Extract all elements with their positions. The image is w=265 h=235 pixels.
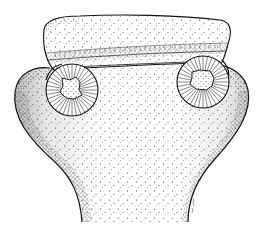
scolex-illustration <box>0 0 265 235</box>
right-sucker <box>177 56 229 108</box>
artist-signature <box>192 198 194 213</box>
left-sucker <box>46 64 98 116</box>
